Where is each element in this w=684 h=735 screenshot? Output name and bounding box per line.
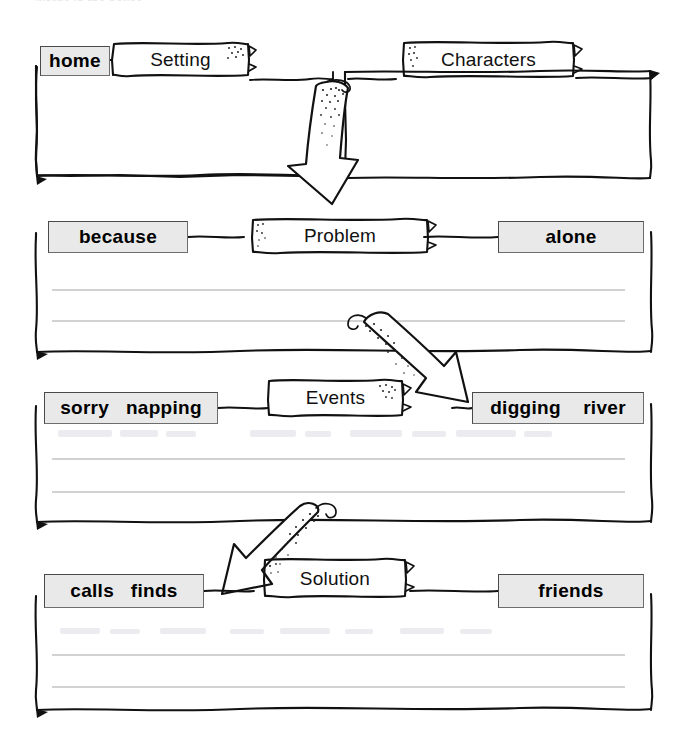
title-problem: Problem (252, 225, 428, 247)
title-setting: Setting (112, 49, 249, 71)
word-chip-calls-finds[interactable]: calls finds (44, 574, 204, 608)
word-chip-friends[interactable]: friends (498, 574, 644, 608)
worksheet-page: words in the boxes (0, 0, 684, 735)
word-chip-sorry-napping[interactable]: sorry napping (44, 392, 218, 424)
word-chip-home[interactable]: home (40, 46, 110, 76)
word-chip-alone[interactable]: alone (498, 221, 644, 253)
writing-area-setting-characters[interactable] (40, 82, 646, 174)
writing-area-solution[interactable] (40, 612, 646, 706)
title-events: Events (268, 387, 403, 409)
writing-area-problem[interactable] (40, 256, 646, 348)
word-chip-because[interactable]: because (48, 221, 188, 253)
title-solution: Solution (264, 568, 406, 590)
word-chip-digging-river[interactable]: digging river (472, 392, 644, 424)
title-characters: Characters (403, 49, 574, 71)
writing-area-events[interactable] (40, 428, 646, 518)
